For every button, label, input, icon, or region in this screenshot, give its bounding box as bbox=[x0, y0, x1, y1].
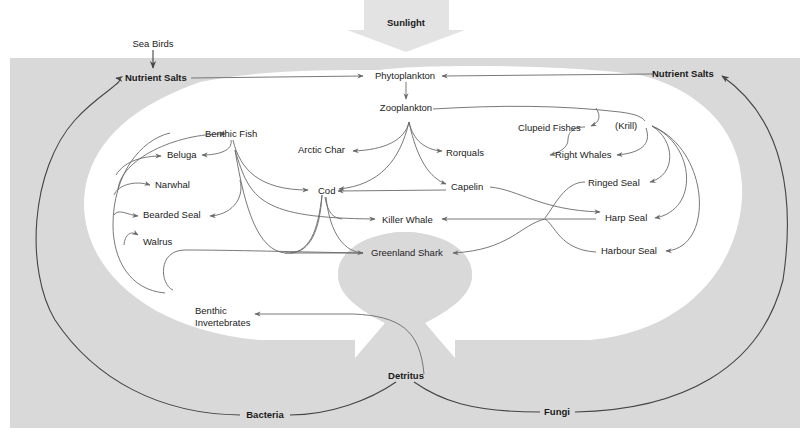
node-bearded-seal: Bearded Seal bbox=[143, 209, 201, 220]
node-benthic-fish: Benthic Fish bbox=[205, 128, 257, 139]
node-greenland-shark: Greenland Shark bbox=[371, 247, 443, 258]
node-ringed-seal: Ringed Seal bbox=[588, 177, 640, 188]
node-krill: (Krill) bbox=[615, 120, 637, 131]
node-phytoplankton: Phytoplankton bbox=[375, 70, 435, 81]
label-sunlight: Sunlight bbox=[387, 17, 426, 28]
node-arctic-char: Arctic Char bbox=[298, 144, 345, 155]
node-nutrient-salts-left: Nutrient Salts bbox=[125, 72, 187, 83]
node-right-whales: Right Whales bbox=[555, 149, 612, 160]
node-benthic-invertebrates-line2: Invertebrates bbox=[195, 317, 251, 328]
node-fungi: Fungi bbox=[544, 406, 570, 417]
node-cod: Cod bbox=[318, 185, 335, 196]
node-harbour-seal: Harbour Seal bbox=[601, 245, 657, 256]
node-detritus: Detritus bbox=[388, 370, 424, 381]
node-bacteria: Bacteria bbox=[246, 409, 284, 420]
node-clupeid-fishes: Clupeid Fishes bbox=[518, 122, 581, 133]
node-capelin: Capelin bbox=[451, 181, 483, 192]
sunlight-arrow: Sunlight bbox=[347, 0, 465, 52]
node-walrus: Walrus bbox=[143, 236, 172, 247]
node-sea-birds: Sea Birds bbox=[132, 38, 173, 49]
node-narwhal: Narwhal bbox=[155, 179, 190, 190]
node-zooplankton: Zooplankton bbox=[380, 102, 432, 113]
node-killer-whale: Killer Whale bbox=[382, 214, 433, 225]
node-harp-seal: Harp Seal bbox=[605, 212, 647, 223]
node-benthic-invertebrates-line1: Benthic bbox=[195, 305, 227, 316]
food-web-diagram: Sunlight bbox=[0, 0, 811, 441]
node-nutrient-salts-right: Nutrient Salts bbox=[652, 68, 714, 79]
node-rorquals: Rorquals bbox=[446, 147, 484, 158]
node-beluga: Beluga bbox=[167, 149, 197, 160]
